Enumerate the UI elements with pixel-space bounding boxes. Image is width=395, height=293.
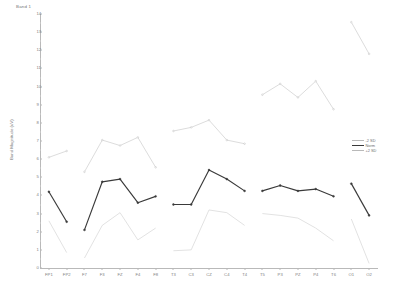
y-tick-mark [40, 122, 42, 123]
series-line-norm [351, 184, 369, 216]
data-point[interactable] [226, 178, 228, 180]
data-point[interactable] [190, 204, 192, 206]
data-point[interactable] [48, 191, 50, 193]
y-tick-mark [40, 249, 42, 250]
data-point[interactable] [368, 214, 370, 216]
data-point[interactable] [137, 137, 139, 139]
data-point[interactable] [261, 190, 263, 192]
x-tick-label-o2: O2 [366, 273, 372, 277]
y-tick-minor [40, 77, 41, 78]
x-tick-label-f8: F8 [153, 273, 158, 277]
data-point[interactable] [84, 171, 86, 173]
y-tick-mark [40, 159, 42, 160]
y-tick-mark [40, 141, 42, 142]
data-point[interactable] [208, 119, 210, 121]
series-line--2sd [173, 210, 244, 251]
data-point[interactable] [297, 97, 299, 99]
data-point[interactable] [173, 130, 175, 132]
data-point[interactable] [244, 143, 246, 145]
series-line-2sd [262, 81, 333, 109]
series-line--2sd [84, 213, 155, 258]
x-tick-label-f3: F3 [100, 273, 105, 277]
x-tick-mark [84, 268, 85, 270]
x-tick-mark [280, 268, 281, 270]
x-tick-mark [369, 268, 370, 270]
x-tick-mark [209, 268, 210, 270]
y-tick-minor [40, 204, 41, 205]
series-line-2sd [351, 22, 369, 54]
data-point[interactable] [137, 202, 139, 204]
series-line-2sd [49, 151, 67, 157]
data-point[interactable] [48, 157, 50, 159]
x-tick-label-c4: C4 [224, 273, 229, 277]
x-tick-label-pz: PZ [295, 273, 300, 277]
series-line-2sd [173, 120, 244, 144]
x-tick-mark [244, 268, 245, 270]
legend: -2 SD Norm +2 SD [352, 138, 394, 153]
x-tick-mark [102, 268, 103, 270]
y-tick-minor [40, 186, 41, 187]
data-point[interactable] [279, 185, 281, 187]
data-point[interactable] [279, 83, 281, 85]
y-tick-minor [40, 150, 41, 151]
chart-root: Band 1 Band Magnitude (uV) 0123456789101… [0, 0, 395, 293]
data-point[interactable] [226, 139, 228, 141]
y-tick-mark [40, 213, 42, 214]
y-tick-minor [40, 258, 41, 259]
x-tick-mark [333, 268, 334, 270]
x-tick-mark [226, 268, 227, 270]
data-point[interactable] [333, 195, 335, 197]
plot-area [40, 14, 378, 268]
data-point[interactable] [208, 169, 210, 171]
data-point[interactable] [315, 188, 317, 190]
x-tick-mark [137, 268, 138, 270]
y-tick-minor [40, 240, 41, 241]
data-point[interactable] [66, 150, 68, 152]
y-tick-minor [40, 59, 41, 60]
data-point[interactable] [315, 80, 317, 82]
data-point[interactable] [190, 127, 192, 129]
y-tick-minor [40, 131, 41, 132]
series-line--2sd [262, 214, 333, 241]
data-point[interactable] [84, 229, 86, 231]
data-point[interactable] [101, 139, 103, 141]
data-point[interactable] [119, 178, 121, 180]
data-point[interactable] [155, 167, 157, 169]
x-tick-mark [155, 268, 156, 270]
series-line--2sd [351, 219, 369, 263]
x-tick-mark [297, 268, 298, 270]
data-point[interactable] [262, 94, 264, 96]
x-tick-mark [191, 268, 192, 270]
x-tick-mark [48, 268, 49, 270]
x-tick-label-cz: CZ [206, 273, 212, 277]
data-point[interactable] [155, 195, 157, 197]
x-tick-label-t5: T5 [260, 273, 265, 277]
series-line-norm [84, 179, 155, 230]
x-tick-label-p3: P3 [278, 273, 283, 277]
x-tick-label-fp1: FP1 [45, 273, 53, 277]
legend-item[interactable]: +2 SD [352, 148, 394, 153]
data-point[interactable] [350, 183, 352, 185]
chart-title: Band 1 [16, 4, 31, 9]
legend-swatch-plus2sd [352, 150, 364, 151]
data-point[interactable] [66, 221, 68, 223]
x-tick-label-t4: T4 [242, 273, 247, 277]
data-point[interactable] [297, 190, 299, 192]
y-tick-minor [40, 95, 41, 96]
x-tick-mark [173, 268, 174, 270]
x-tick-mark [315, 268, 316, 270]
data-point[interactable] [368, 53, 370, 55]
data-point[interactable] [244, 190, 246, 192]
series-line-norm [49, 192, 67, 222]
legend-label: +2 SD [366, 149, 377, 153]
series-line-norm [173, 170, 244, 204]
x-tick-mark [120, 268, 121, 270]
data-point[interactable] [172, 204, 174, 206]
data-point[interactable] [101, 181, 103, 183]
data-point[interactable] [333, 108, 335, 110]
y-tick-mark [40, 268, 42, 269]
x-tick-mark [351, 268, 352, 270]
y-tick-minor [40, 113, 41, 114]
data-point[interactable] [119, 145, 121, 147]
data-point[interactable] [351, 21, 353, 23]
